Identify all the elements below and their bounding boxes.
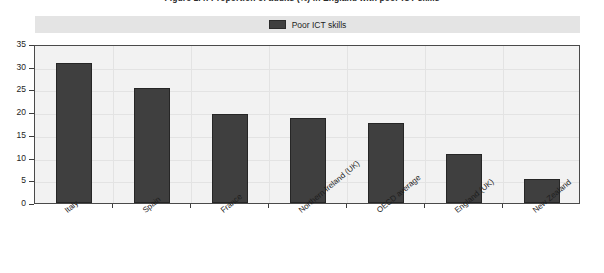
y-axis-tick-label: 0 <box>0 198 26 208</box>
y-axis-tick-label: 30 <box>0 62 26 72</box>
x-axis-tick <box>424 204 425 208</box>
chart-figure: Figure 1.4: Proportion of adults (%) in … <box>0 0 604 273</box>
gridline-vertical <box>347 46 348 203</box>
bar-france[interactable] <box>212 114 247 203</box>
y-axis-tick-label: 20 <box>0 107 26 117</box>
x-axis-tick <box>502 204 503 208</box>
x-axis-tick <box>190 204 191 208</box>
chart-title: Figure 1.4: Proportion of adults (%) in … <box>0 0 604 4</box>
gridline-horizontal <box>35 69 579 70</box>
y-axis-tick-label: 5 <box>0 175 26 185</box>
gridline-horizontal <box>35 91 579 92</box>
gridline-vertical <box>113 46 114 203</box>
x-axis-tick <box>112 204 113 208</box>
gridline-vertical <box>191 46 192 203</box>
gridline-vertical <box>503 46 504 203</box>
gridline-vertical <box>425 46 426 203</box>
bar-italy[interactable] <box>56 63 91 203</box>
y-axis-tick-label: 25 <box>0 84 26 94</box>
gridline-vertical <box>269 46 270 203</box>
y-axis-tick-label: 10 <box>0 153 26 163</box>
y-axis-tick-label: 15 <box>0 130 26 140</box>
legend-label-poor-ict-skills: Poor ICT skills <box>292 20 347 30</box>
y-axis-tick <box>29 204 34 205</box>
x-axis-tick <box>346 204 347 208</box>
x-axis-tick <box>268 204 269 208</box>
plot-area <box>34 45 580 204</box>
bar-spain[interactable] <box>134 88 169 203</box>
chart-legend: Poor ICT skills <box>35 16 580 33</box>
gridline-horizontal <box>35 114 579 115</box>
legend-swatch-poor-ict-skills <box>269 20 286 29</box>
y-axis-tick-label: 35 <box>0 39 26 49</box>
